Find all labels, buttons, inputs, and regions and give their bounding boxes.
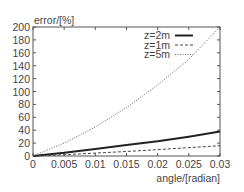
legend: z=2mz=1mz=5m <box>144 29 193 60</box>
x-tick-label: 0.025 <box>176 158 202 170</box>
x-tick-label: 0.02 <box>147 158 168 170</box>
y-tick-label: 40 <box>18 124 30 136</box>
line-chart: 020406080100120140160180200 00.0050.010.… <box>0 0 244 192</box>
x-tick-label: 0.005 <box>51 158 77 170</box>
y-tick-label: 20 <box>18 137 30 149</box>
y-axis-ticks: 020406080100120140160180200 <box>12 21 220 162</box>
y-tick-label: 180 <box>12 34 30 46</box>
x-tick-label: 0.01 <box>85 158 106 170</box>
y-axis-label: error/[%] <box>34 14 74 26</box>
y-tick-label: 200 <box>12 21 30 33</box>
y-tick-label: 160 <box>12 47 30 59</box>
x-tick-label: 0.015 <box>113 158 139 170</box>
y-tick-label: 60 <box>18 111 30 123</box>
x-axis-label: angle/[radian] <box>156 172 220 184</box>
y-tick-label: 120 <box>12 73 30 85</box>
y-tick-label: 140 <box>12 60 30 72</box>
series-lines <box>33 27 220 156</box>
x-tick-label: 0.03 <box>210 158 231 170</box>
x-axis-ticks: 00.0050.010.0150.020.0250.03 <box>30 27 230 170</box>
series-line-z=2m <box>33 132 220 157</box>
x-tick-label: 0 <box>30 158 36 170</box>
y-tick-label: 80 <box>18 98 30 110</box>
legend-label: z=5m <box>144 48 170 60</box>
y-tick-label: 100 <box>12 86 30 98</box>
